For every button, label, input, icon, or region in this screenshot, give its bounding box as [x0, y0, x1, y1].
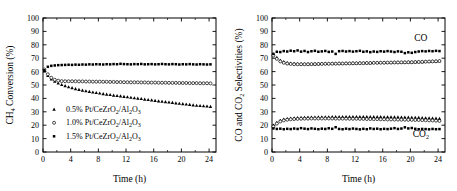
data-point [403, 61, 406, 64]
data-point [129, 81, 132, 84]
data-point [161, 63, 164, 66]
data-point [403, 52, 406, 55]
data-point [275, 51, 278, 54]
data-point [133, 96, 136, 99]
data-point [285, 128, 288, 131]
data-point [102, 63, 105, 66]
data-point [64, 80, 67, 83]
figure-two-panel-chart: 048121620240102030405060708090100Time (h… [0, 0, 457, 191]
data-point [382, 118, 385, 121]
y-tick-label: 40 [31, 94, 39, 103]
data-point [313, 63, 316, 66]
data-point [157, 99, 160, 102]
data-point [123, 63, 126, 66]
data-point [407, 51, 410, 54]
data-point [71, 64, 74, 67]
data-point [437, 119, 440, 122]
data-point [320, 117, 323, 120]
data-point [310, 127, 313, 130]
data-point [282, 119, 285, 122]
x-axis-title: Time (h) [341, 174, 374, 185]
data-point [275, 128, 278, 131]
data-point [85, 63, 88, 66]
data-point [112, 93, 115, 96]
legend-label: 0.5% Pt/CeZrO2/Al2O3 [66, 105, 141, 115]
data-point [362, 128, 365, 131]
data-point [91, 80, 94, 83]
data-point [434, 60, 437, 63]
data-point [171, 63, 174, 66]
x-tick-label: 0 [270, 155, 274, 164]
data-point [192, 63, 195, 66]
y-tick-label: 10 [260, 135, 268, 144]
data-point [420, 60, 423, 63]
data-point [296, 128, 299, 131]
data-point [403, 118, 406, 121]
data-point [389, 50, 392, 53]
data-point [126, 81, 129, 84]
data-point [126, 95, 129, 98]
data-point [389, 118, 392, 121]
chart-panel-ch4-conversion: 048121620240102030405060708090100Time (h… [0, 0, 229, 191]
data-point [116, 63, 119, 65]
data-point [386, 118, 389, 121]
data-point [399, 61, 402, 64]
data-point [361, 117, 364, 120]
data-point [174, 81, 177, 84]
data-point [400, 51, 403, 54]
data-point [188, 103, 191, 106]
data-point [195, 63, 198, 66]
data-point [84, 80, 87, 83]
data-point [431, 119, 434, 122]
y-tick-label: 80 [31, 41, 39, 50]
data-point [341, 50, 344, 53]
data-point [303, 127, 306, 129]
data-point [413, 118, 416, 121]
data-point [292, 63, 295, 66]
x-tick-label: 16 [150, 155, 158, 164]
data-point [320, 50, 323, 53]
data-point [285, 50, 288, 53]
data-point [77, 80, 80, 83]
data-point [122, 95, 125, 98]
data-point [393, 127, 396, 129]
data-point [379, 61, 382, 64]
data-point [292, 118, 295, 121]
data-point [153, 99, 156, 102]
data-point [296, 63, 299, 66]
data-point [81, 63, 84, 66]
data-point [424, 119, 427, 122]
x-tick-label: 16 [378, 155, 386, 164]
data-point [81, 80, 84, 83]
data-point [91, 90, 94, 93]
x-tick-label: 20 [406, 155, 414, 164]
data-point [275, 57, 278, 60]
x-tick-label: 0 [41, 155, 45, 164]
data-point [330, 50, 333, 53]
data-point [306, 51, 309, 54]
data-point [77, 88, 80, 91]
data-point [188, 63, 191, 66]
data-point [379, 50, 382, 53]
data-point [182, 63, 185, 65]
data-point [140, 81, 143, 84]
data-point [70, 86, 73, 89]
data-point [344, 50, 347, 53]
legend-marker [52, 108, 55, 111]
data-point [43, 69, 46, 72]
data-point [358, 117, 361, 120]
data-point [382, 128, 385, 131]
data-point [275, 122, 278, 125]
data-point [413, 51, 416, 54]
data-point [334, 117, 337, 120]
data-point [140, 63, 143, 66]
data-point [157, 81, 160, 84]
data-point [379, 118, 382, 121]
data-point [334, 53, 337, 56]
data-point [282, 50, 285, 53]
data-point [292, 127, 295, 130]
x-tick-label: 4 [297, 155, 301, 164]
data-point [81, 89, 84, 92]
data-point [375, 61, 378, 64]
data-point [351, 127, 354, 130]
